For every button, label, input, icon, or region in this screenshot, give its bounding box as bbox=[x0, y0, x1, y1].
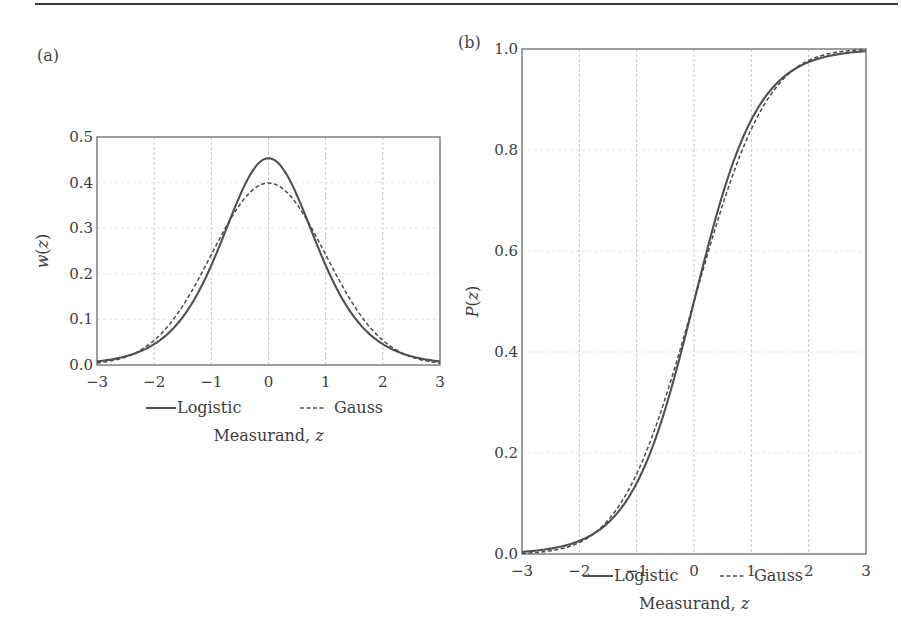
legend: LogisticGauss bbox=[146, 398, 383, 417]
legend-gauss-label: Gauss bbox=[334, 398, 383, 417]
x-tick-label: 1 bbox=[321, 373, 331, 391]
y-tick-label: 0.1 bbox=[69, 310, 93, 328]
y-tick-label: 0.6 bbox=[494, 242, 518, 260]
plot-b: −3−2−101230.00.20.40.60.81.0P(z)Measuran… bbox=[463, 40, 871, 613]
y-axis-label: w(z) bbox=[33, 234, 52, 269]
y-tick-label: 0.3 bbox=[69, 219, 93, 237]
x-tick-label: −2 bbox=[143, 373, 165, 391]
legend-logistic-label: Logistic bbox=[177, 398, 241, 417]
y-tick-label: 0.5 bbox=[69, 128, 93, 146]
x-axis-label: Measurand, z bbox=[639, 594, 750, 613]
plot-a: −3−2−101230.00.10.20.30.40.5w(z)Measuran… bbox=[33, 128, 445, 445]
y-tick-label: 0.4 bbox=[69, 174, 93, 192]
legend-gauss-label: Gauss bbox=[754, 566, 803, 585]
y-tick-label: 1.0 bbox=[494, 40, 518, 58]
figure-canvas: −3−2−101230.00.10.20.30.40.5w(z)Measuran… bbox=[0, 0, 901, 619]
x-tick-label: −1 bbox=[200, 373, 222, 391]
x-tick-label: −3 bbox=[86, 373, 108, 391]
legend-logistic-label: Logistic bbox=[614, 566, 678, 585]
y-tick-label: 0.4 bbox=[494, 343, 518, 361]
y-tick-label: 0.0 bbox=[494, 545, 518, 563]
x-tick-label: −3 bbox=[511, 562, 533, 580]
x-tick-label: 0 bbox=[689, 562, 699, 580]
y-tick-label: 0.2 bbox=[69, 265, 93, 283]
x-tick-label: 2 bbox=[378, 373, 388, 391]
y-axis-label: P(z) bbox=[463, 286, 482, 319]
y-tick-label: 0.0 bbox=[69, 356, 93, 374]
x-tick-label: −2 bbox=[568, 562, 590, 580]
y-tick-label: 0.2 bbox=[494, 444, 518, 462]
x-tick-label: 0 bbox=[264, 373, 274, 391]
x-tick-label: 2 bbox=[804, 562, 814, 580]
x-tick-label: 3 bbox=[435, 373, 445, 391]
plot-frame bbox=[97, 137, 440, 365]
x-axis-label: Measurand, z bbox=[213, 426, 324, 445]
x-tick-label: 3 bbox=[861, 562, 871, 580]
y-tick-label: 0.8 bbox=[494, 141, 518, 159]
